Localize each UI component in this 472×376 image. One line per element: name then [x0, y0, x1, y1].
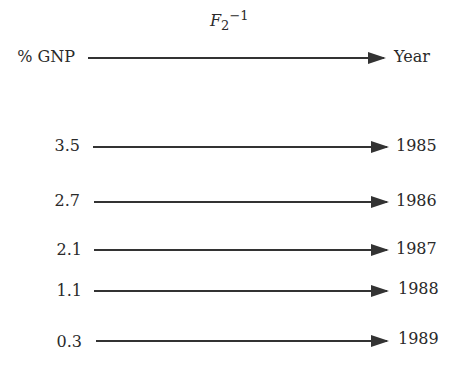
gnp-value: 0.3 [57, 333, 82, 351]
year-value: 1987 [396, 240, 437, 258]
gnp-value: 3.5 [55, 137, 80, 155]
gnp-value: 1.1 [57, 282, 82, 300]
year-value: 1988 [398, 280, 439, 298]
year-value: 1985 [396, 137, 437, 155]
year-value: 1989 [398, 330, 439, 348]
function-superscript: −1 [229, 8, 248, 23]
mapping-arrow [94, 290, 387, 292]
header-arrow [88, 57, 384, 59]
mapping-arrow [93, 146, 387, 148]
function-name: F [210, 11, 221, 30]
mapping-arrow [94, 201, 387, 203]
year-value: 1986 [396, 192, 437, 210]
gnp-value: 2.7 [55, 192, 80, 210]
codomain-label: Year [394, 48, 430, 66]
domain-label: % GNP [17, 48, 75, 66]
mapping-arrow [94, 249, 387, 251]
mapping-arrow [96, 340, 387, 342]
function-label: F2−1 [210, 8, 249, 33]
gnp-value: 2.1 [57, 241, 82, 259]
